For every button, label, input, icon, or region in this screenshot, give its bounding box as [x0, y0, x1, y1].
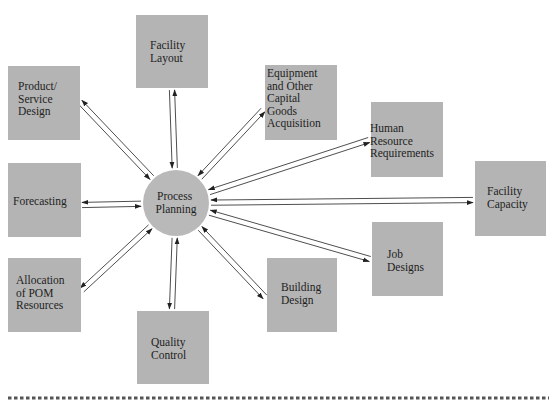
connector-allocation-pom-resources	[80, 225, 152, 292]
connector-quality-control	[169, 238, 177, 309]
node-forecasting: Forecasting	[8, 163, 81, 237]
arrow-from-human-resource-requirements	[208, 138, 368, 190]
hub-label: Process Planning	[156, 190, 197, 216]
arrow-from-allocation-pom-resources	[84, 229, 152, 292]
node-label-line: Human	[370, 122, 404, 134]
node-label: QualityControl	[151, 336, 186, 361]
arrow-from-quality-control	[175, 238, 178, 309]
hub-node-process-planning: Process Planning	[143, 170, 209, 236]
node-facility-layout: FacilityLayout	[136, 15, 208, 88]
node-label-line: and Other	[267, 80, 313, 92]
arrow-to-building-design	[198, 230, 263, 299]
connector-forecasting	[82, 201, 141, 207]
arrow-from-facility-layout	[169, 90, 172, 168]
arrow-to-forecasting	[82, 201, 141, 202]
node-label-line: Allocation	[16, 274, 65, 286]
node-label-line: Forecasting	[13, 195, 67, 208]
arrow-to-equipment-capital-goods	[202, 112, 265, 179]
node-label-line: Capital	[267, 92, 300, 105]
node-quality-control: QualityControl	[137, 311, 209, 384]
arrow-to-job-designs	[209, 215, 369, 261]
node-label-line: Service	[18, 93, 52, 105]
node-label: Forecasting	[13, 195, 67, 208]
node-label-line: Design	[281, 294, 314, 307]
process-planning-diagram: FacilityLayoutEquipmentand OtherCapitalG…	[0, 0, 553, 402]
node-label-line: Product/	[18, 80, 58, 92]
node-label-line: of POM	[16, 287, 53, 299]
node-job-designs: JobDesigns	[372, 222, 443, 296]
node-label-line: Facility	[150, 39, 185, 52]
node-label: FacilityLayout	[150, 39, 185, 65]
node-label-line: Building	[281, 281, 322, 294]
arrow-to-allocation-pom-resources	[80, 225, 148, 288]
arrow-to-product-service-design	[82, 100, 154, 176]
node-allocation-pom-resources: Allocationof POMResources	[8, 258, 81, 332]
node-label-line: Quality	[151, 336, 186, 349]
node-facility-capacity: FacilityCapacity	[475, 161, 546, 236]
connector-facility-capacity	[211, 197, 473, 205]
node-label-line: Capacity	[487, 198, 528, 211]
node-product-service-design: Product/ServiceDesign	[8, 66, 80, 140]
node-label-line: Resources	[16, 299, 64, 311]
arrow-from-equipment-capital-goods	[198, 108, 261, 175]
connector-product-service-design	[78, 100, 154, 179]
node-box	[372, 222, 443, 296]
node-building-design: BuildingDesign	[267, 258, 337, 332]
node-label-line: Designs	[387, 261, 425, 274]
node-label: FacilityCapacity	[487, 185, 528, 211]
node-human-resource-requirements: HumanResourceRequirements	[370, 102, 443, 177]
node-label-line: Job	[387, 248, 403, 260]
node-label-line: Equipment	[267, 67, 318, 80]
arrow-to-human-resource-requirements	[210, 142, 370, 194]
hub-label-line: Process	[157, 190, 193, 202]
node-label-line: Control	[151, 349, 186, 361]
arrow-from-product-service-design	[78, 104, 150, 180]
node-label-line: Goods	[267, 105, 298, 117]
arrow-from-job-designs	[210, 210, 370, 256]
connector-building-design	[198, 227, 267, 299]
node-label-line: Resource	[370, 135, 413, 147]
connector-equipment-capital-goods	[198, 108, 265, 179]
node-label-line: Acquisition	[267, 117, 321, 130]
connector-facility-layout	[169, 90, 177, 168]
arrow-to-quality-control	[169, 238, 172, 309]
connector-job-designs	[209, 210, 371, 261]
arrow-from-building-design	[202, 227, 267, 296]
node-label-line: Design	[18, 105, 51, 118]
arrow-to-facility-capacity	[211, 203, 473, 206]
node-label-line: Facility	[487, 185, 522, 198]
node-label-line: Layout	[150, 52, 183, 65]
arrow-from-facility-capacity	[211, 197, 473, 200]
node-label-line: Requirements	[370, 147, 434, 160]
arrow-to-facility-layout	[175, 90, 178, 168]
hub-label-line: Planning	[156, 203, 197, 216]
arrow-from-forecasting	[82, 206, 141, 207]
node-equipment-capital-goods: Equipmentand OtherCapitalGoodsAcquisitio…	[265, 65, 337, 140]
